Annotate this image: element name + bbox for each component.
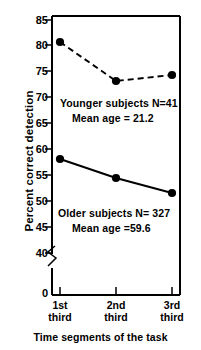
series-younger-subjects bbox=[56, 38, 176, 85]
annotation-younger-subjects: Younger subjects N=41 bbox=[60, 97, 178, 109]
data-point bbox=[56, 38, 64, 46]
x-tick-label-line1: 1st bbox=[34, 300, 86, 312]
annotation-younger-mean-age: Mean age = 21.2 bbox=[72, 112, 154, 124]
series-line-younger bbox=[60, 42, 172, 81]
data-point bbox=[112, 174, 120, 182]
x-tick-label-line1: 3rd bbox=[146, 300, 198, 312]
series-older-subjects bbox=[56, 155, 176, 197]
plot-area bbox=[0, 0, 201, 350]
data-point bbox=[168, 71, 176, 79]
x-axis-title: Time segments of the task bbox=[0, 331, 201, 343]
x-tick-label-2: 2nd third bbox=[90, 300, 142, 324]
annotation-older-subjects: Older subjects N= 327 bbox=[58, 207, 170, 219]
x-tick-label-line2: third bbox=[90, 312, 142, 324]
x-tick-label-1: 1st third bbox=[34, 300, 86, 324]
x-tick-label-line2: third bbox=[146, 312, 198, 324]
axis-break-icon bbox=[48, 246, 56, 266]
x-tick-label-line1: 2nd bbox=[90, 300, 142, 312]
data-point bbox=[112, 77, 120, 85]
x-tick-label-3: 3rd third bbox=[146, 300, 198, 324]
y-axis-ticks bbox=[45, 20, 52, 253]
data-point bbox=[56, 155, 64, 163]
x-axis-ticks bbox=[60, 287, 172, 295]
data-point bbox=[168, 189, 176, 197]
figure: Percent correct detection 85 80 75 70 65… bbox=[0, 0, 201, 350]
annotation-older-mean-age: Mean age =59.6 bbox=[72, 222, 151, 234]
x-tick-label-line2: third bbox=[34, 312, 86, 324]
